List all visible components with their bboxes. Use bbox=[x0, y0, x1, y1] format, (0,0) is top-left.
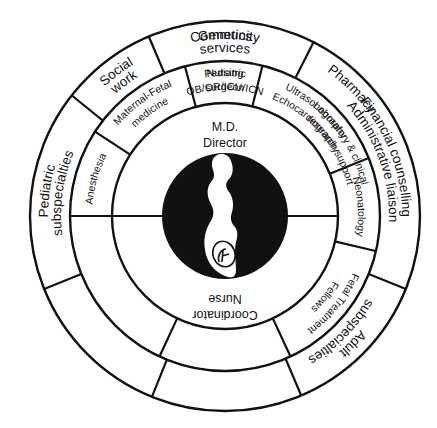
pregnant-woman-silhouette-icon bbox=[162, 153, 288, 279]
mid-anesthesia: Anesthesia bbox=[80, 150, 109, 207]
care-team-diagram: M.D. Director Nurse Coordinator Communit… bbox=[0, 0, 437, 428]
mid-ob-or-icu-icn: OB/OR/ICU/ICN bbox=[185, 80, 265, 98]
md-director-label: M.D. Director bbox=[203, 120, 247, 150]
mid-nursing: Nursing bbox=[206, 66, 244, 79]
nurse-coordinator-label: Nurse Coordinator bbox=[192, 292, 257, 322]
svg-text:Coordinator: Coordinator bbox=[192, 308, 257, 322]
svg-text:M.D.: M.D. bbox=[212, 120, 238, 134]
outer-genetics: Genetics bbox=[197, 27, 253, 44]
svg-text:Director: Director bbox=[203, 136, 247, 150]
svg-text:Nurse: Nurse bbox=[208, 292, 241, 306]
